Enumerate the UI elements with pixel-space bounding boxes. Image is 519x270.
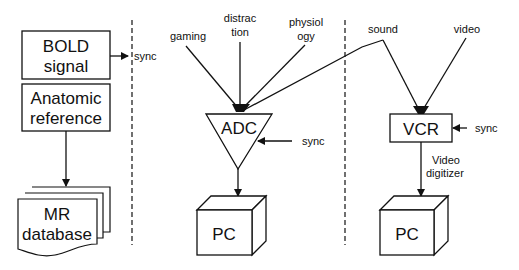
input-distraction-line2: tion — [231, 26, 249, 38]
adc-input-lines — [186, 40, 383, 110]
mr-database-document-stack: MR database — [18, 187, 110, 256]
video-digitizer-line2: digitizer — [426, 167, 464, 179]
anatomic-label-line1: Anatomic — [31, 89, 102, 108]
adc-sync-label: sync — [302, 135, 325, 147]
input-physiology-line2: ogy — [297, 30, 315, 42]
vcr-sync-label: sync — [475, 122, 498, 134]
input-sound-label: sound — [368, 23, 398, 35]
acquisition-diagram: BOLD signal sync Anatomic reference MR d… — [0, 0, 519, 270]
vcr-box: VCR — [390, 114, 452, 142]
bold-label-line2: signal — [44, 57, 88, 76]
input-distraction-line1: distrac — [224, 12, 257, 24]
input-gaming-label: gaming — [170, 30, 206, 42]
pc-cube-right: PC — [380, 196, 448, 255]
adc-label: ADC — [221, 119, 257, 138]
pc-label-middle: PC — [212, 225, 236, 244]
anatomic-label-line2: reference — [30, 109, 102, 128]
vcr-label: VCR — [403, 120, 439, 139]
input-physiology-line1: physiol — [289, 16, 323, 28]
input-video-label: video — [454, 23, 480, 35]
mr-database-line1: MR — [44, 205, 70, 224]
anatomic-reference-box: Anatomic reference — [22, 84, 110, 131]
mr-database-line2: database — [22, 225, 92, 244]
video-digitizer-line1: Video — [432, 154, 460, 166]
bold-label-line1: BOLD — [43, 37, 89, 56]
vcr-convergence-arrowhead — [413, 106, 429, 114]
pc-cube-middle: PC — [197, 196, 266, 255]
vcr-input-lines — [383, 38, 466, 108]
pc-label-right: PC — [395, 225, 419, 244]
bold-signal-box: BOLD signal — [22, 31, 110, 79]
bold-sync-label: sync — [134, 50, 157, 62]
